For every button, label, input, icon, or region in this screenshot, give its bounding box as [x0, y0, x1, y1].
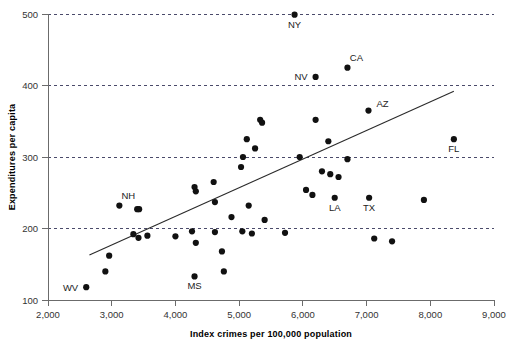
data-point [371, 235, 377, 241]
data-point [240, 154, 246, 160]
data-point [211, 179, 217, 185]
point-label: CA [350, 52, 364, 63]
data-point [313, 117, 319, 123]
plot-canvas: 100200300400500 2,0003,0004,0005,0006,00… [0, 0, 507, 344]
data-point [259, 120, 265, 126]
x-tick-label: 9,000 [482, 309, 506, 320]
y-tick-label: 100 [22, 295, 38, 306]
point-label: FL [448, 143, 459, 154]
data-point [365, 107, 371, 113]
gridlines [48, 14, 494, 300]
data-point [319, 168, 325, 174]
data-point [313, 74, 319, 80]
data-point [262, 217, 268, 223]
data-point [135, 235, 141, 241]
data-point-labels: NYCANVAZFLNHLATXMSWV [63, 19, 459, 293]
data-point [212, 199, 218, 205]
data-point [421, 197, 427, 203]
x-tick-label: 6,000 [291, 309, 315, 320]
x-tick-label: 7,000 [355, 309, 379, 320]
point-label: WV [63, 282, 79, 293]
point-label: LA [329, 202, 341, 213]
data-point [106, 253, 112, 259]
data-point [228, 214, 234, 220]
x-tick-label: 4,000 [164, 309, 188, 320]
x-tick-label: 8,000 [418, 309, 442, 320]
data-point [297, 154, 303, 160]
data-point [249, 230, 255, 236]
data-point [246, 203, 252, 209]
data-points [83, 12, 457, 291]
data-point [291, 12, 297, 18]
data-point [451, 136, 457, 142]
data-point [303, 187, 309, 193]
data-point [309, 192, 315, 198]
point-label: TX [363, 202, 376, 213]
data-point [116, 203, 122, 209]
data-point [252, 145, 258, 151]
scatter-chart: 100200300400500 2,0003,0004,0005,0006,00… [0, 0, 507, 344]
data-point [327, 171, 333, 177]
y-tick-label: 300 [22, 152, 38, 163]
data-point [83, 284, 89, 290]
x-tick-label: 5,000 [227, 309, 251, 320]
data-point [172, 233, 178, 239]
data-point [344, 65, 350, 71]
data-point [189, 228, 195, 234]
data-point [130, 231, 136, 237]
data-point [136, 206, 142, 212]
data-point [193, 188, 199, 194]
data-point [366, 195, 372, 201]
y-tick-label: 400 [22, 80, 38, 91]
data-point [344, 156, 350, 162]
x-tick-label: 2,000 [36, 309, 60, 320]
regression-line [89, 91, 453, 255]
y-tick-label: 500 [22, 9, 38, 20]
data-point [244, 136, 250, 142]
data-point [221, 268, 227, 274]
data-point [282, 230, 288, 236]
x-axis-ticks: 2,0003,0004,0005,0006,0007,0008,0009,000 [36, 300, 506, 320]
data-point [332, 195, 338, 201]
x-axis-title: Index crimes per 100,000 population [190, 329, 352, 339]
data-point [238, 164, 244, 170]
data-point [191, 273, 197, 279]
x-tick-label: 3,000 [100, 309, 124, 320]
data-point [239, 228, 245, 234]
y-tick-label: 200 [22, 223, 38, 234]
point-label: AZ [376, 98, 388, 109]
data-point [193, 240, 199, 246]
y-axis-title: Expenditures per capita [7, 103, 17, 210]
point-label: NV [294, 71, 308, 82]
data-point [389, 238, 395, 244]
data-point [102, 268, 108, 274]
data-point [335, 174, 341, 180]
point-label: MS [187, 280, 201, 291]
data-point [219, 248, 225, 254]
point-label: NH [121, 190, 135, 201]
data-point [144, 233, 150, 239]
point-label: NY [288, 19, 302, 30]
data-point [212, 229, 218, 235]
y-axis-ticks: 100200300400500 [22, 9, 48, 306]
data-point [325, 138, 331, 144]
